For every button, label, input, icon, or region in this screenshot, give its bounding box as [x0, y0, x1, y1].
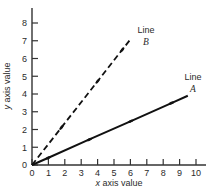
y-tick-label: 5: [22, 72, 27, 82]
x-axis-title-rest: axis value: [100, 178, 143, 188]
x-tick-label: 0: [29, 168, 34, 178]
y-tick-label: 2: [22, 125, 27, 135]
y-axis-title: y axis value: [2, 62, 12, 110]
y-tick-label: 1: [22, 143, 27, 153]
y-axis-tick-labels: 012345678: [22, 18, 27, 170]
series-label-b-text: Line: [137, 25, 154, 35]
line-chart: 012345678 012345678910 LineALineB x axis…: [0, 0, 222, 191]
y-tick-label: 4: [22, 89, 27, 99]
y-tick-label: 0: [22, 160, 27, 170]
x-tick-label: 8: [161, 168, 166, 178]
series-label-a-id: A: [189, 84, 196, 94]
x-tick-label: 6: [128, 168, 133, 178]
x-tick-label: 10: [191, 168, 201, 178]
x-tick-label: 3: [79, 168, 84, 178]
series-label-a-text: Line: [184, 72, 201, 82]
x-axis-title: x axis value: [94, 178, 142, 188]
y-axis-title-rest: axis value: [2, 62, 12, 105]
x-tick-label: 5: [111, 168, 116, 178]
x-tick-label: 1: [46, 168, 51, 178]
x-tick-label: 9: [177, 168, 182, 178]
x-tick-label: 4: [95, 168, 100, 178]
y-tick-label: 3: [22, 107, 27, 117]
y-tick-label: 6: [22, 54, 27, 64]
series-label-b-id: B: [143, 37, 149, 47]
y-tick-label: 8: [22, 18, 27, 28]
x-tick-label: 2: [62, 168, 67, 178]
chart-figure: 012345678 012345678910 LineALineB x axis…: [0, 0, 222, 191]
y-tick-label: 7: [22, 36, 27, 46]
x-tick-label: 7: [144, 168, 149, 178]
